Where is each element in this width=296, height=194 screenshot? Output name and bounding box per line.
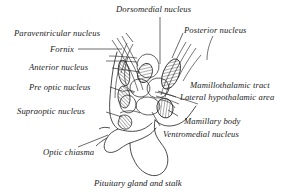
leader-posterior <box>172 33 183 58</box>
anterior-nucleus-shape <box>135 61 155 85</box>
figure-caption: Pituitary gland and stalk <box>94 178 182 188</box>
mamillary-body-shape <box>155 97 175 120</box>
label-paraventricular-nucleus: Paraventricular nucleus <box>14 29 100 38</box>
label-posterior-nucleus: Posterior nucleus <box>184 26 247 35</box>
label-mamillothalamic-tract: Mamillothalamic tract <box>190 81 270 90</box>
leader-lateral-hypothalamic <box>158 91 176 97</box>
label-lateral-hypothalamic-area: Lateral hypothalamic area <box>180 93 274 102</box>
label-dorsomedial-nucleus: Dorsomedial nucleus <box>116 5 191 14</box>
label-optic-chiasma: Optic chiasma <box>43 148 94 157</box>
label-supraoptic-nucleus: Supraoptic nucleus <box>17 107 85 116</box>
leader-paraventricular <box>126 33 133 42</box>
label-fornix: Fornix <box>50 45 74 54</box>
supraoptic-nucleus-shape <box>118 115 132 129</box>
leader-optic-chiasma <box>78 135 108 147</box>
label-ventromedial-nucleus: Ventromedial nucleus <box>163 130 239 139</box>
label-anterior-nucleus: Anterior nucleus <box>29 63 88 72</box>
leader-supraoptic <box>106 112 122 117</box>
hypothalamus-diagram: Dorsomedial nucleus Paraventricular nucl… <box>0 0 296 194</box>
label-pre-optic-nucleus: Pre optic nucleus <box>29 83 91 92</box>
label-mamillary-body: Mamillary body <box>184 117 241 126</box>
